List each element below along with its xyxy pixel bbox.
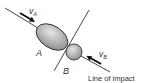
velocity-label-a: vA [29,6,37,17]
body-b-label: B [63,66,69,76]
body-b [66,44,82,60]
collision-diagram: vA vB A B Line of impact [0,0,148,83]
line-of-impact-label: Line of impact [88,74,136,83]
velocity-label-b: vB [99,49,107,60]
body-a-label: A [35,48,42,58]
